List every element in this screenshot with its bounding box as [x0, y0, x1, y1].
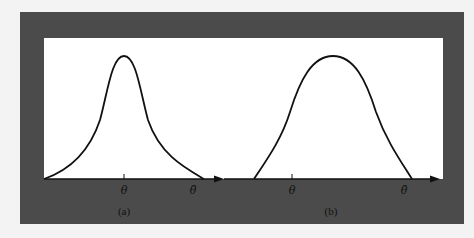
figure-svg: θ θ̂ (a) θ θ̂ (b)	[0, 0, 474, 238]
caption-b: (b)	[325, 205, 338, 218]
endpoint-label-thetahat-a: θ̂	[190, 184, 197, 197]
tick-label-theta-b: θ	[289, 184, 296, 197]
tick-label-theta-a: θ	[121, 184, 128, 197]
caption-a: (a)	[118, 205, 131, 218]
endpoint-label-thetahat-b: θ̂	[401, 184, 408, 197]
white-panel	[44, 38, 443, 179]
figure: θ θ̂ (a) θ θ̂ (b)	[0, 0, 474, 238]
